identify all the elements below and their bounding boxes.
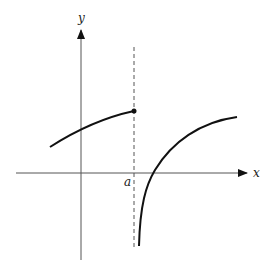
y-axis-label: y: [77, 11, 85, 25]
a-label: a: [124, 175, 131, 189]
right-curve-branch: [139, 117, 237, 246]
left-curve-branch: [50, 111, 134, 147]
x-axis-label: x: [253, 166, 260, 180]
closed-endpoint-dot: [132, 109, 137, 114]
function-graph: y x a: [0, 0, 272, 265]
